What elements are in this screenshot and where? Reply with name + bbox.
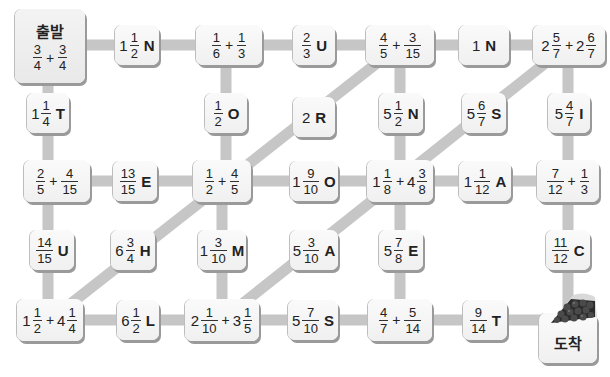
tile-5-4-7-I[interactable]: 5 47 I [548,93,590,133]
tile-6-1-2-L[interactable]: 6 12 L [117,300,159,340]
tile-5-1-2-N[interactable]: 5 12 N [379,93,423,133]
goal-label: 도착 [554,332,582,353]
tile-5-6-7-S[interactable]: 5 67 S [462,93,506,133]
tile-14-15-U[interactable]: 1415 U [30,230,74,270]
tile-1-6-plus-1-3[interactable]: 16 + 13 [196,25,262,65]
tile-1-1-2-N[interactable]: 1 12 N [115,25,159,65]
tile-9-14-T[interactable]: 914 T [463,300,507,340]
tile-11-12-C[interactable]: 1112 C [546,230,590,270]
goal-tile[interactable]: 도착 [539,313,597,363]
tile-1-9-10-O[interactable]: 1 910 O [290,161,338,201]
tile-4-7-plus-5-14[interactable]: 47 + 514 [368,299,432,341]
letter: N [144,37,155,54]
start-expression: 34 + 34 [32,43,69,72]
tile-1-1-8-plus-4-3-8[interactable]: 1 18 + 4 38 [367,160,433,202]
tile-2-5-plus-4-15[interactable]: 25 + 415 [24,160,90,202]
tile-2-3-U[interactable]: 23 U [293,25,335,65]
tile-4-5-plus-3-15[interactable]: 45 + 315 [366,25,434,65]
tile-5-7-10-S[interactable]: 5 710 S [288,300,338,340]
tile-1-1-2-plus-4-1-4[interactable]: 1 12 + 4 14 [17,299,83,341]
fraction-maze-board: 출발 34 + 34 1 12 N 16 + 13 23 U 45 + 315 … [0,0,610,377]
tile-1-3-10-M[interactable]: 1 310 M [198,230,246,270]
tile-1-1-12-A[interactable]: 1 112 A [459,161,511,201]
tile-6-3-4-H[interactable]: 6 34 H [111,230,155,270]
tile-5-3-10-A[interactable]: 5 310 A [290,230,338,270]
tile-5-7-8-E[interactable]: 5 78 E [379,230,423,270]
tile-13-15-E[interactable]: 1315 E [113,161,157,201]
tile-2-R[interactable]: 2 R [293,97,335,137]
tile-1-1-4-T[interactable]: 1 14 T [27,93,69,133]
start-label: 출발 [36,20,64,41]
blueberry-pie-icon [545,291,601,325]
tile-7-12-plus-1-3[interactable]: 712 + 13 [537,160,599,202]
tile-2-1-10-plus-3-1-5[interactable]: 2 110 + 3 15 [185,299,259,341]
tile-1-2-O[interactable]: 12 O [205,93,247,133]
tile-1-N[interactable]: 1 N [459,25,509,65]
tile-1-2-plus-4-5[interactable]: 12 + 45 [193,160,251,202]
tile-2-5-7-plus-2-6-7[interactable]: 2 57 + 2 67 [533,25,605,65]
start-tile[interactable]: 출발 34 + 34 [15,9,85,83]
